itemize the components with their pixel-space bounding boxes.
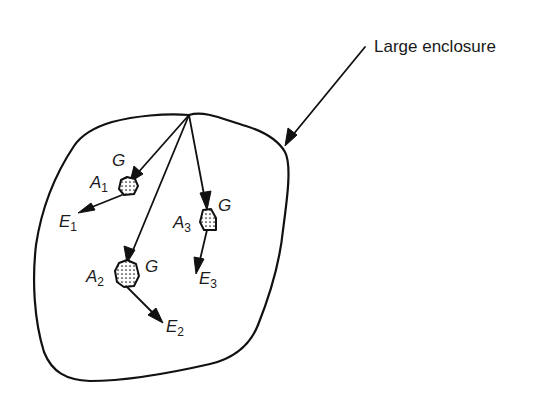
body-label-a1: A1 [89, 173, 108, 195]
irradiation-ray-a1 [130, 115, 189, 182]
irradiation-label-a1: G [112, 151, 125, 170]
body-a3-shape [200, 209, 216, 230]
emission-label-e1: E1 [59, 212, 77, 234]
body-a1-shape [119, 177, 138, 195]
emission-arrow-e3 [194, 230, 207, 274]
enclosure-radiation-diagram: Large enclosure G G G A1 A2 A [0, 0, 558, 403]
emission-label-e2: E2 [166, 317, 184, 339]
emission-arrow-e1 [78, 195, 122, 213]
enclosure-pointer-arrow [285, 47, 365, 146]
enclosure-label: Large enclosure [374, 37, 496, 56]
irradiation-label-a2: G [145, 257, 158, 276]
body-a2-shape [115, 260, 139, 287]
emission-arrow-e2 [127, 287, 163, 323]
body-label-a2: A2 [85, 267, 104, 289]
irradiation-ray-a3 [189, 115, 211, 210]
emission-label-e3: E3 [199, 269, 217, 291]
irradiation-label-a3: G [218, 196, 231, 215]
enclosure-outline [34, 114, 288, 381]
body-label-a3: A3 [172, 213, 191, 235]
